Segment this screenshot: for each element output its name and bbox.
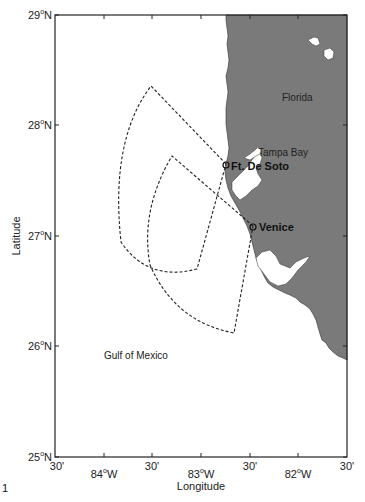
label-ft-de-soto: Ft. De Soto [231,160,289,172]
label-tampa-bay: Tampa Bay [258,147,308,158]
figure-number: 1 [2,482,8,494]
lon-label-84-30: 30' [50,460,64,472]
lat-label-27: 27oN [28,229,52,242]
lat-label-28: 28oN [28,118,52,131]
lon-label-82-30: 30' [243,460,257,472]
coverage-area-ft-de-soto [119,86,226,272]
label-gulf-of-mexico: Gulf of Mexico [104,350,168,361]
map-canvas: 29oN 28oN 27oN 26oN 25oN 30' 84oW 30' 83… [0,0,365,502]
lon-label-83: 83oW [188,467,215,480]
lon-label-82: 82oW [285,467,312,480]
map-figure: 29oN 28oN 27oN 26oN 25oN 30' 84oW 30' 83… [0,0,365,502]
lon-label-81-30: 30' [340,460,354,472]
lat-label-29: 29oN [28,8,52,21]
lon-label-84: 84oW [91,467,118,480]
x-axis-title: Longitude [177,480,225,492]
lat-label-26: 26oN [28,339,52,352]
lon-label-83-30: 30' [145,460,159,472]
label-florida: Florida [282,92,313,103]
y-axis-title: Latitude [10,216,22,255]
lat-label-25: 25oN [28,450,52,463]
label-venice: Venice [259,221,294,233]
